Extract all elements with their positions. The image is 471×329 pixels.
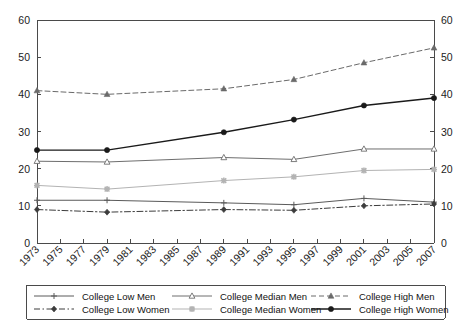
series-college-high-men [34, 45, 437, 97]
series-line [37, 98, 434, 150]
x-tick-label: 1989 [203, 243, 228, 268]
data-point-marker [189, 306, 195, 312]
data-point-marker [221, 200, 227, 206]
data-point-marker [221, 154, 227, 159]
y-tick-label-right: 0 [441, 237, 447, 249]
legend: College Low MenCollege Median MenCollege… [26, 285, 449, 319]
x-tick-label: 1979 [86, 243, 111, 268]
data-point-marker [291, 174, 297, 180]
legend-label: College High Women [359, 304, 449, 315]
data-point-marker [431, 166, 437, 172]
series-line [37, 198, 434, 204]
data-point-marker [34, 182, 40, 188]
x-tick-label: 2003 [367, 243, 392, 268]
y-tick-label-left: 60 [18, 14, 30, 26]
data-point-marker [34, 207, 39, 213]
x-tick-label: 1999 [320, 243, 345, 268]
series-college-median-women [34, 166, 437, 192]
data-point-marker [361, 195, 367, 201]
x-tick-label: 1995 [273, 243, 298, 268]
x-tick-label: 1987 [180, 243, 205, 268]
legend-label: College Low Men [82, 291, 155, 302]
x-tick-label: 1991 [227, 243, 252, 268]
data-point-marker [34, 147, 39, 152]
series-college-median-men [34, 146, 437, 164]
data-point-marker [104, 197, 110, 203]
data-point-marker [431, 45, 437, 50]
x-tick-label: 2001 [343, 243, 368, 268]
y-tick-label-left: 30 [18, 126, 30, 138]
data-point-marker [221, 130, 226, 135]
legend-label: College Low Women [82, 304, 169, 315]
series-line [37, 204, 434, 212]
data-point-marker [104, 186, 110, 192]
y-tick-label-right: 60 [441, 14, 453, 26]
y-tick-label-left: 20 [18, 163, 30, 175]
x-tick-label: 1993 [250, 243, 275, 268]
y-tick-label-right: 20 [441, 163, 453, 175]
data-point-marker [361, 203, 366, 209]
y-tick-label-right: 40 [441, 88, 453, 100]
axes [37, 20, 434, 243]
x-tick-label: 1975 [40, 243, 65, 268]
y-tick-label-left: 50 [18, 51, 30, 63]
x-tick-label: 2007 [413, 243, 438, 268]
x-tick-label: 1997 [297, 243, 322, 268]
x-tick-label: 1977 [63, 243, 88, 268]
data-point-marker [431, 95, 436, 100]
series-line [37, 48, 434, 94]
y-tick-label-left: 10 [18, 200, 30, 212]
data-point-marker [291, 117, 296, 122]
legend-label: College High Men [359, 291, 435, 302]
y-axis-ticks: 00101020203030404050506060 [18, 14, 453, 249]
x-tick-label: 1985 [157, 243, 182, 268]
line-chart: 0010102020303040405050606019731975197719… [0, 0, 471, 329]
y-tick-label-left: 40 [18, 88, 30, 100]
data-point-marker [221, 178, 227, 184]
data-point-marker [221, 207, 226, 213]
data-point-marker [34, 197, 40, 203]
y-tick-label-right: 10 [441, 200, 453, 212]
y-tick-label-right: 50 [441, 51, 453, 63]
data-point-marker [291, 207, 296, 213]
series-line [37, 169, 434, 189]
x-tick-label: 2005 [390, 243, 415, 268]
data-point-marker [104, 147, 109, 152]
series-line [37, 149, 434, 162]
legend-label: College Median Women [220, 304, 321, 315]
data-point-marker [291, 202, 297, 208]
series-college-high-women [34, 95, 436, 152]
x-tick-label: 1983 [133, 243, 158, 268]
legend-label: College Median Men [220, 291, 307, 302]
data-point-marker [104, 209, 109, 215]
y-tick-label-right: 30 [441, 126, 453, 138]
data-point-marker [361, 103, 366, 108]
data-point-marker [34, 88, 40, 93]
x-tick-label: 1973 [16, 243, 41, 268]
x-tick-label: 1981 [110, 243, 135, 268]
data-point-marker [361, 168, 367, 174]
chart-container: 0010102020303040405050606019731975197719… [0, 0, 471, 329]
data-point-marker [328, 306, 333, 311]
